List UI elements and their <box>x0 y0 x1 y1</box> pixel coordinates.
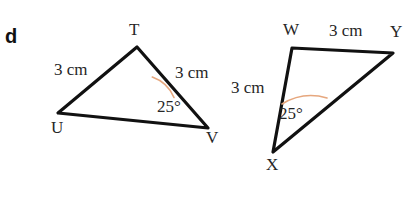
vertex-label-w: W <box>283 21 299 38</box>
vertex-label-t: T <box>129 21 139 38</box>
angle-label-v: 25° <box>157 98 181 115</box>
vertex-label-y: Y <box>390 23 402 40</box>
vertex-label-x: X <box>266 156 278 173</box>
angle-label-x: 25° <box>279 105 303 122</box>
triangle-wxy-shape <box>273 48 393 152</box>
geometry-figure: d T U V W Y X 3 cm 3 cm 3 cm 3 cm 25° 25… <box>0 0 411 212</box>
side-length-wx: 3 cm <box>231 79 265 96</box>
side-length-tu: 3 cm <box>54 61 88 78</box>
vertex-label-u: U <box>51 119 63 136</box>
side-length-wy: 3 cm <box>329 22 363 39</box>
side-length-tv: 3 cm <box>175 64 209 81</box>
vertex-label-v: V <box>206 129 218 146</box>
angle-arc-x <box>282 96 327 104</box>
